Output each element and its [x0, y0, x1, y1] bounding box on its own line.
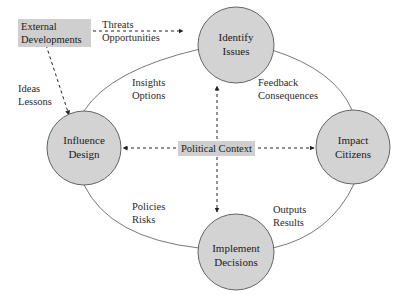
- node-influence-label: Influence Design: [48, 134, 120, 161]
- political-context-box: Political Context: [178, 141, 255, 156]
- external-developments-box: External Developments: [18, 19, 91, 47]
- label-outputs-results: Outputs Results: [273, 203, 306, 229]
- node-impact-label: Impact Citizens: [317, 134, 389, 161]
- label-ideas-lessons: Ideas Lessons: [18, 82, 52, 108]
- label-feedback-consequences: Feedback Consequences: [258, 76, 318, 102]
- label-threats-opportunities: Threats Opportunities: [102, 18, 160, 44]
- label-insights-options: Insights Options: [132, 76, 165, 102]
- node-identify-label: Identify Issues: [200, 31, 272, 58]
- node-implement-label: Implement Decisions: [200, 242, 272, 269]
- label-policies-risks: Policies Risks: [132, 200, 165, 226]
